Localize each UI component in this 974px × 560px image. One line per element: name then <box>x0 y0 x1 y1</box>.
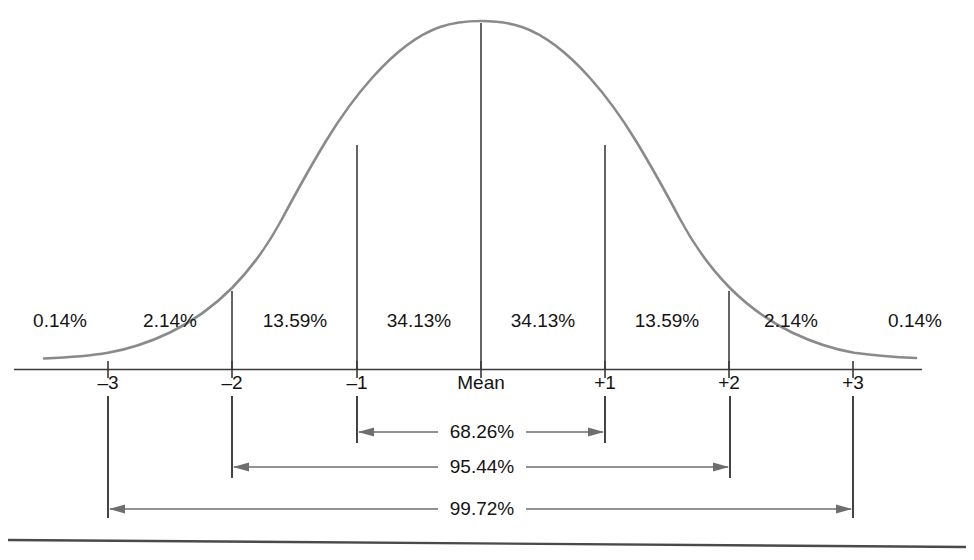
axis-tick-label-plus-2: +2 <box>718 372 740 393</box>
span-arrow-left-68 <box>358 428 374 437</box>
area-label-6: 2.14% <box>764 310 818 331</box>
area-label-5: 13.59% <box>635 310 700 331</box>
span-arrow-left-95 <box>233 463 249 472</box>
axis-tick-label-minus-1: –1 <box>346 372 367 393</box>
area-label-2: 13.59% <box>263 310 328 331</box>
span-arrow-left-99 <box>109 505 125 514</box>
area-label-3: 34.13% <box>387 310 452 331</box>
axis-tick-label-mean: Mean <box>457 372 505 393</box>
span-label-68: 68.26% <box>450 421 515 442</box>
span-arrow-right-68 <box>588 428 604 437</box>
span-group-99: 99.72% <box>109 498 852 521</box>
area-label-0: 0.14% <box>33 310 87 331</box>
area-label-7: 0.14% <box>888 310 942 331</box>
axis-tick-label-plus-3: +3 <box>842 372 864 393</box>
axis-tick-label-minus-2: –2 <box>221 372 242 393</box>
axis-tick-label-plus-1: +1 <box>594 372 616 393</box>
area-label-1: 2.14% <box>143 310 197 331</box>
area-label-4: 34.13% <box>511 310 576 331</box>
bottom-rule <box>8 540 966 547</box>
span-arrow-right-95 <box>713 463 729 472</box>
normal-distribution-figure: 0.14% 2.14% 13.59% 34.13% 34.13% 13.59% … <box>0 0 974 560</box>
axis-tick-label-minus-3: –3 <box>97 372 118 393</box>
span-label-99: 99.72% <box>450 498 515 519</box>
bell-curve-path <box>44 21 916 359</box>
span-arrow-right-99 <box>836 505 852 514</box>
span-group-95: 95.44% <box>233 456 729 479</box>
span-label-95: 95.44% <box>450 456 515 477</box>
span-group-68: 68.26% <box>358 421 604 444</box>
